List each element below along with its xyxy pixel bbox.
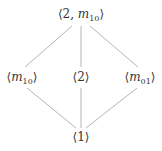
node-sub: 10 [89, 14, 99, 23]
node-close: ⟩ [99, 7, 104, 21]
node-pre: 2, [63, 7, 78, 21]
node-right: ⟨m01⟩ [125, 71, 156, 83]
hasse-diagram: ⟨2, m10⟩ ⟨m10⟩ ⟨2⟩ ⟨m01⟩ ⟨1⟩ [0, 0, 162, 151]
node-var: m [78, 7, 89, 21]
edge-right-bottom [86, 88, 137, 128]
node-var: m [11, 70, 22, 84]
node-bottom: ⟨1⟩ [72, 131, 89, 143]
node-var: m [129, 70, 140, 84]
node-mid: ⟨2⟩ [72, 71, 89, 83]
node-close: ⟩ [85, 70, 90, 84]
edge-left-bottom [27, 88, 76, 128]
node-sub: 01 [141, 77, 151, 86]
node-top: ⟨2, m10⟩ [58, 8, 104, 20]
edge-top-left [25, 26, 72, 67]
node-left: ⟨m10⟩ [7, 71, 38, 83]
node-close: ⟩ [85, 130, 90, 144]
node-sub: 10 [23, 77, 33, 86]
edge-top-right [90, 26, 138, 67]
node-close: ⟩ [151, 70, 156, 84]
node-close: ⟩ [33, 70, 38, 84]
